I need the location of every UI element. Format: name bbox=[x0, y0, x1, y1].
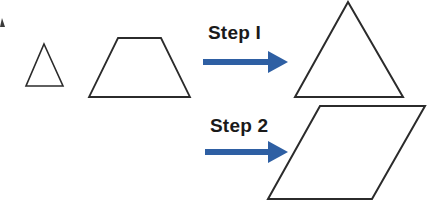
small-triangle bbox=[26, 44, 63, 86]
step2-arrow-head bbox=[268, 141, 288, 163]
step1-arrow bbox=[203, 51, 288, 73]
figure-canvas: Step I Step 2 bbox=[0, 0, 434, 204]
step1-label: Step I bbox=[208, 23, 261, 42]
parallelogram bbox=[268, 106, 425, 199]
step2-arrow-shaft bbox=[205, 149, 268, 155]
trapezoid bbox=[89, 38, 190, 97]
step2-arrow bbox=[205, 141, 288, 163]
large-triangle bbox=[295, 2, 403, 97]
step2-label: Step 2 bbox=[210, 116, 268, 135]
step1-arrow-shaft bbox=[203, 59, 268, 65]
step1-arrow-head bbox=[268, 51, 288, 73]
